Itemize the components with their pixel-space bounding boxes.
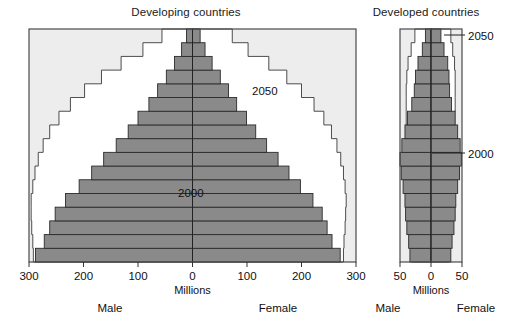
x-axis-label: Millions (174, 284, 211, 296)
annotation-2000: 2000 (468, 148, 494, 160)
bar-2000-female (431, 152, 461, 166)
bar-2000-female (431, 98, 451, 112)
bar-2000-male (149, 98, 193, 112)
figure-root: Developing countries 3002001000100200300… (0, 0, 512, 315)
bar-2000-female (193, 139, 267, 153)
bar-2000-female (431, 29, 441, 43)
x-tick-label: 50 (394, 270, 407, 282)
bar-2000-male (104, 152, 193, 166)
bar-2000-male (405, 125, 431, 139)
x-axis-ticks: 3002001000100200300 (19, 262, 365, 282)
bar-2000-male (116, 139, 192, 153)
population-pyramid-developing: 3002001000100200300MillionsMaleFemale205… (0, 0, 372, 315)
bar-2000-male (403, 180, 431, 194)
x-tick-label: 200 (292, 270, 311, 282)
bar-2000-male (175, 56, 193, 70)
male-label: Male (376, 302, 401, 314)
female-label: Female (457, 302, 495, 314)
female-label: Female (259, 302, 297, 314)
x-axis-label: Millions (413, 284, 450, 296)
bar-2000-female (431, 56, 448, 70)
annotation-2000: 2000 (178, 187, 204, 199)
bar-2000-female (193, 207, 323, 221)
bar-2000-male (401, 166, 431, 180)
x-tick-label: 50 (456, 270, 469, 282)
bar-2000-male (425, 29, 431, 43)
annotation-2050: 2050 (252, 85, 278, 97)
bar-2000-female (431, 235, 452, 249)
bar-2000-male (79, 180, 192, 194)
bar-2000-male (158, 84, 193, 98)
bar-2000-female (431, 180, 458, 194)
bar-2000-male (50, 221, 193, 235)
bar-2000-male (400, 152, 431, 166)
bar-2000-male (414, 84, 431, 98)
bar-2000-male (405, 193, 431, 207)
bar-2000-male (44, 235, 192, 249)
bar-2000-male (55, 207, 192, 221)
x-tick-label: 0 (428, 270, 434, 282)
bar-2000-female (193, 29, 201, 43)
panel-developed-countries: Developed countries 50050MillionsMaleFem… (372, 0, 512, 315)
bar-2000-female (193, 56, 213, 70)
bar-2000-female (431, 139, 460, 153)
bar-2000-male (418, 56, 431, 70)
x-tick-label: 100 (237, 270, 256, 282)
bar-2000-female (431, 125, 458, 139)
bar-2000-male (407, 111, 431, 125)
x-tick-label: 300 (19, 270, 38, 282)
bar-2000-female (431, 207, 455, 221)
bar-2000-male (36, 248, 193, 262)
population-pyramid-developed: 50050MillionsMaleFemale20502000 (372, 0, 512, 315)
bar-2000-female (431, 43, 444, 57)
annotation-2050: 2050 (468, 30, 494, 42)
bar-2000-female (431, 166, 460, 180)
bar-2000-female (193, 125, 256, 139)
bar-2000-male (402, 139, 431, 153)
panel-developing-countries: Developing countries 3002001000100200300… (0, 0, 372, 315)
bar-2000-female (431, 111, 455, 125)
bar-2000-female (431, 84, 450, 98)
x-tick-label: 100 (128, 270, 147, 282)
x-tick-label: 0 (189, 270, 195, 282)
male-label: Male (98, 302, 123, 314)
bar-2000-female (193, 70, 221, 84)
bar-2000-male (422, 43, 431, 57)
bar-2000-female (431, 221, 454, 235)
bar-2000-female (193, 235, 333, 249)
bar-2000-male (166, 70, 192, 84)
bar-2000-male (409, 235, 431, 249)
bar-2000-female (193, 166, 289, 180)
bar-2000-male (410, 248, 431, 262)
x-tick-label: 200 (74, 270, 93, 282)
bar-2000-female (431, 248, 451, 262)
bar-2000-male (187, 29, 193, 43)
bar-2000-male (407, 221, 431, 235)
bar-2000-female (193, 98, 237, 112)
bar-2000-male (66, 193, 193, 207)
x-tick-label: 300 (346, 270, 365, 282)
bar-2000-female (431, 70, 449, 84)
bar-2000-male (92, 166, 193, 180)
bar-2000-female (193, 152, 279, 166)
bar-2000-male (416, 70, 432, 84)
bar-2000-male (128, 125, 192, 139)
bar-2000-male (182, 43, 193, 57)
x-axis-ticks: 50050 (394, 262, 469, 282)
bar-2000-female (193, 248, 341, 262)
bar-2000-male (406, 207, 431, 221)
bar-2000-female (193, 111, 247, 125)
bar-2000-female (193, 84, 229, 98)
bar-2000-female (193, 43, 206, 57)
bar-2000-female (193, 180, 301, 194)
bar-2000-female (431, 193, 456, 207)
bar-2000-female (193, 193, 313, 207)
bar-2000-male (412, 98, 431, 112)
bar-2000-male (138, 111, 193, 125)
bar-2000-female (193, 221, 328, 235)
